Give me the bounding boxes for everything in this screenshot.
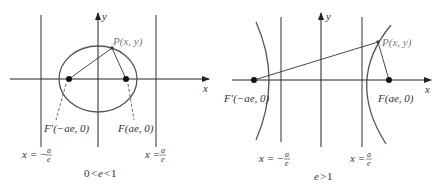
y-axis-label: y [325,10,331,22]
right-focus-label: F(ae, 0) [117,122,154,135]
svg-text:<: < [91,167,97,179]
focal-radius-left [254,42,378,80]
hyperbola-panel: y x P(x, y) F′(−ae, 0) F(ae, 0) x = − a … [223,10,431,182]
left-focus-label: F′(−ae, 0) [223,92,270,105]
svg-text:e: e [47,155,51,164]
svg-text:<: < [104,167,110,179]
hyperbola-left-branch [256,22,269,140]
right-focus-label: F(ae, 0) [377,92,414,105]
svg-text:1: 1 [327,170,333,182]
svg-text:>: > [320,170,326,182]
svg-text:x =: x = [144,148,160,160]
right-focus-point [123,76,129,82]
hyperbola-caption: e > 1 [314,170,333,182]
right-focus-point [386,77,392,83]
point-p-label: P(x, y) [112,35,143,48]
x-axis-label: x [424,83,430,95]
x-axis-label: x [202,82,208,94]
point-p-label: P(x, y) [381,36,412,49]
left-focus-label: F′(−ae, 0) [43,122,90,135]
svg-text:x = −: x = − [21,148,47,160]
svg-text:e: e [161,155,165,164]
svg-text:e: e [314,170,319,182]
left-focus-point [66,76,72,82]
left-directrix-label: x = − a e [21,146,52,164]
y-axis-label: y [101,10,107,22]
right-directrix-label: x = a e [349,150,372,168]
right-focus-leader [128,84,134,120]
focal-radius-right [112,48,126,79]
ellipse-caption: 0 < e < 1 [84,167,117,179]
svg-text:a: a [285,150,289,159]
svg-text:e: e [367,159,371,168]
conic-sections-diagram: y x P(x, y) F′(−ae, 0) F(ae, 0) x = − a … [0,0,441,189]
ellipse-panel: y x P(x, y) F′(−ae, 0) F(ae, 0) x = − a … [10,10,209,179]
svg-text:e: e [98,167,103,179]
svg-text:a: a [367,150,371,159]
svg-text:a: a [47,146,51,155]
left-directrix-label: x = − a e [258,150,290,168]
svg-text:e: e [285,159,289,168]
left-focus-point [251,77,257,83]
svg-text:x = −: x = − [258,152,284,164]
point-p [376,40,380,44]
right-directrix-label: x = a e [144,146,166,164]
svg-text:0: 0 [84,167,90,179]
svg-text:a: a [161,146,165,155]
svg-text:x =: x = [349,152,365,164]
svg-text:1: 1 [111,167,117,179]
